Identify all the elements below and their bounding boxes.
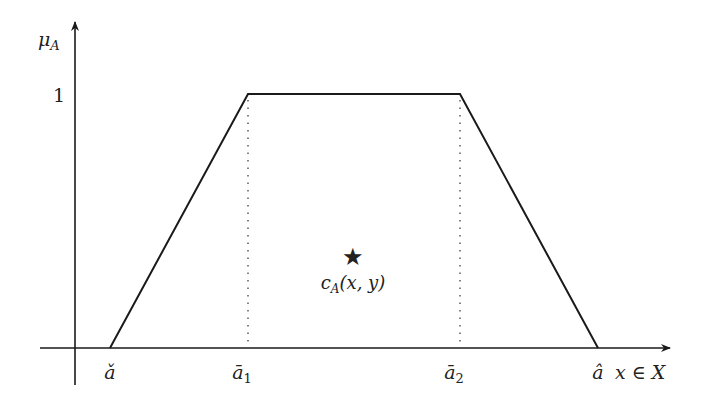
- membership-diagram: μA 1 ǎ ā1 ā2 â x ∈ X ★ cA(x, y): [0, 0, 715, 406]
- trapezoid-membership-curve: [110, 94, 598, 348]
- centroid-star-icon: ★: [342, 243, 364, 271]
- label-a-check: ǎ: [104, 361, 115, 383]
- centroid-label: cA(x, y): [321, 272, 386, 296]
- y-tick-1: 1: [53, 84, 65, 106]
- x-axis-label: x ∈ X: [615, 361, 667, 383]
- y-axis-label: μA: [38, 28, 60, 53]
- label-a-hat: â: [592, 361, 603, 383]
- label-a-bar-1: ā1: [232, 361, 252, 386]
- label-a-bar-2: ā2: [444, 361, 464, 386]
